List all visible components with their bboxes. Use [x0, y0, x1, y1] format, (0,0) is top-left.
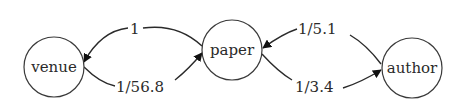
node-label-venue: venue	[30, 58, 77, 76]
edge-label-paper-author: 1/3.4	[295, 78, 333, 96]
node-author: author	[382, 38, 442, 98]
edge-author-to-paper: 1/5.1	[263, 20, 381, 64]
edge-paper-to-venue: 1	[84, 20, 202, 62]
node-paper: paper	[202, 20, 262, 80]
node-venue: venue	[24, 37, 84, 97]
edge-label-author-paper: 1/5.1	[298, 20, 336, 38]
edge-paper-to-author: 1/3.4	[262, 54, 381, 96]
diagram-canvas: 1 1/56.8 1/5.1 1/3.4 venue paper author	[0, 0, 467, 103]
edge-label-venue-paper: 1/56.8	[116, 78, 164, 96]
edge-label-paper-venue: 1	[130, 20, 140, 38]
node-label-paper: paper	[210, 41, 255, 59]
edge-venue-to-paper: 1/56.8	[84, 53, 202, 96]
node-label-author: author	[387, 59, 438, 77]
